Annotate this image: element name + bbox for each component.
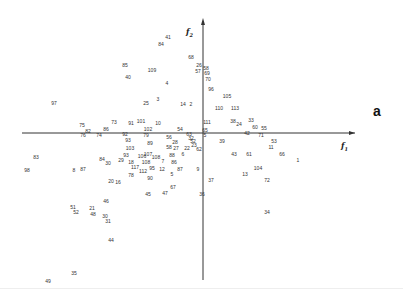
data-point-label: 110 (215, 106, 223, 111)
data-point-label: 47 (162, 191, 168, 196)
data-point-label: 10 (155, 121, 161, 126)
data-point-label: 30 (105, 161, 111, 166)
data-point-label: 93 (125, 138, 131, 143)
data-point-label: 20 (108, 179, 114, 184)
data-point-label: 60 (252, 125, 258, 130)
data-point-label: 86 (103, 127, 109, 132)
data-point-label: 104 (254, 166, 262, 171)
data-point-label: 85 (122, 63, 128, 68)
data-point-label: 58 (166, 145, 172, 150)
y-axis-arrow-icon (201, 18, 205, 25)
data-point-label: 97 (51, 101, 57, 106)
data-point-label: 34 (264, 210, 270, 215)
data-point-label: 113 (231, 106, 239, 111)
data-point-label: 12 (159, 167, 165, 172)
data-point-label: 61 (246, 152, 252, 157)
panel-label: a (373, 103, 381, 119)
data-point-label: 13 (242, 172, 248, 177)
data-point-label: 42 (244, 131, 250, 136)
data-point-label: 2 (190, 102, 193, 107)
data-point-label: 74 (96, 133, 102, 138)
data-point-label: 70 (205, 77, 211, 82)
data-point-label: 44 (108, 238, 114, 243)
data-point-label: 103 (126, 146, 134, 151)
data-point-label: 72 (264, 178, 270, 183)
data-point-label: 3 (157, 97, 160, 102)
data-point-label: 84 (158, 42, 164, 47)
data-point-label: 33 (248, 118, 254, 123)
data-point-label: 8 (73, 168, 76, 173)
data-point-label: 27 (173, 146, 179, 151)
data-point-label: 43 (231, 152, 237, 157)
data-point-label: 36 (199, 192, 205, 197)
data-point-label: 45 (145, 192, 151, 197)
data-point-label: 79 (143, 133, 149, 138)
data-point-label: 73 (111, 120, 117, 125)
data-point-label: 48 (90, 212, 96, 217)
data-point-label: 38 (230, 119, 236, 124)
data-point-label: 56 (166, 135, 172, 140)
data-point-label: 31 (105, 219, 111, 224)
scatter-plot: f2 f1 a 41846826585769708510940496105253… (0, 0, 403, 296)
data-point-label: 109 (148, 68, 156, 73)
data-point-label: 6 (182, 152, 185, 157)
data-point-label: 112 (139, 169, 147, 174)
data-point-label: 54 (177, 127, 183, 132)
data-point-label: 87 (177, 167, 183, 172)
data-point-label: 67 (170, 185, 176, 190)
data-point-label: 52 (73, 210, 79, 215)
data-point-label: 7 (162, 159, 165, 164)
y-axis-label: f2 (186, 26, 193, 38)
data-point-label: 16 (115, 180, 121, 185)
data-point-label: 86 (171, 160, 177, 165)
data-point-label: 108 (152, 155, 160, 160)
data-point-label: 25 (143, 101, 149, 106)
data-point-label: 71 (258, 133, 264, 138)
data-point-label: 49 (45, 279, 51, 284)
data-point-label: 22 (184, 146, 190, 151)
data-point-label: 90 (147, 176, 153, 181)
data-point-label: 5 (171, 172, 174, 177)
data-point-label: 14 (180, 102, 186, 107)
data-point-label: 39 (219, 139, 225, 144)
data-point-label: 41 (165, 35, 171, 40)
data-point-label: 91 (128, 121, 134, 126)
data-point-label: 105 (223, 94, 231, 99)
data-point-label: 95 (149, 166, 155, 171)
data-point-label: 37 (208, 178, 214, 183)
data-point-label: 46 (103, 199, 109, 204)
data-point-label: 96 (208, 87, 214, 92)
data-point-label: 87 (80, 167, 86, 172)
data-point-label: 66 (279, 152, 285, 157)
data-point-label: 101 (137, 119, 145, 124)
data-point-label: 62 (196, 147, 202, 152)
data-point-label: 5 (204, 133, 207, 138)
data-point-label: 35 (71, 271, 77, 276)
x-axis-label: f1 (341, 140, 348, 152)
data-point-label: 68 (188, 55, 194, 60)
data-point-label: 9 (197, 167, 200, 172)
data-point-label: 29 (118, 158, 124, 163)
data-point-label: 57 (195, 69, 201, 74)
data-point-label: 78 (128, 173, 134, 178)
data-point-label: 4 (166, 81, 169, 86)
divider (0, 288, 403, 289)
data-point-label: 75 (79, 123, 85, 128)
data-point-label: 24 (236, 122, 242, 127)
data-point-label: 83 (33, 155, 39, 160)
data-point-label: 40 (125, 75, 131, 80)
data-point-label: 76 (80, 133, 86, 138)
data-point-label: 11 (268, 145, 273, 150)
data-point-label: 1 (297, 158, 300, 163)
data-point-label: 88 (169, 153, 175, 158)
data-point-label: 84 (99, 157, 105, 162)
data-point-label: 89 (147, 141, 153, 146)
data-point-label: 55 (261, 126, 267, 131)
data-point-label: 111 (203, 120, 211, 125)
x-axis-arrow-icon (349, 131, 355, 135)
data-point-label: 98 (24, 168, 30, 173)
data-point-label: 117 (131, 165, 139, 170)
